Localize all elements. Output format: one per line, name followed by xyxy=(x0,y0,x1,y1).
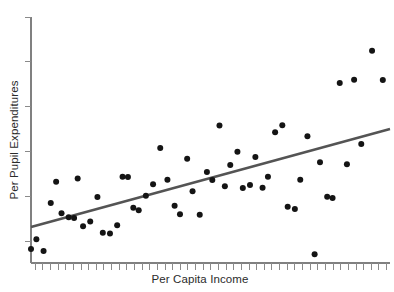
data-point xyxy=(190,188,196,194)
data-point xyxy=(337,80,343,86)
data-point xyxy=(330,195,336,201)
data-point xyxy=(279,122,285,128)
data-point xyxy=(150,181,156,187)
data-point xyxy=(204,169,210,175)
data-point xyxy=(292,206,298,212)
x-axis-title: Per Capita Income xyxy=(152,273,249,285)
data-point xyxy=(75,176,81,182)
data-point xyxy=(209,177,215,183)
x-axis-ticks xyxy=(35,263,386,270)
data-point xyxy=(304,133,310,139)
data-point xyxy=(80,223,86,229)
data-point xyxy=(130,205,136,211)
data-point xyxy=(312,251,318,257)
data-point xyxy=(351,77,357,83)
data-point xyxy=(222,183,228,189)
data-point xyxy=(177,211,183,217)
y-axis-ticks xyxy=(25,17,31,241)
data-point xyxy=(344,161,350,167)
data-point xyxy=(157,145,163,151)
data-point xyxy=(197,212,203,218)
data-points-group xyxy=(28,48,386,257)
data-point xyxy=(100,230,106,236)
data-point xyxy=(317,159,323,165)
y-axis-title: Per Pupil Expenditures xyxy=(8,80,20,199)
scatter-plot-figure: Per Capita Income Per Pupil Expenditures xyxy=(0,0,394,292)
data-point xyxy=(87,218,93,224)
data-point xyxy=(369,48,375,54)
data-point xyxy=(216,122,222,128)
data-point xyxy=(143,193,149,199)
data-point xyxy=(164,177,170,183)
data-point xyxy=(297,177,303,183)
data-point xyxy=(260,185,266,191)
data-point xyxy=(227,162,233,168)
data-point xyxy=(324,194,330,200)
data-point xyxy=(114,222,120,228)
data-point xyxy=(234,149,240,155)
data-point xyxy=(265,174,271,180)
data-point xyxy=(184,156,190,162)
data-point xyxy=(247,182,253,188)
data-point xyxy=(28,246,34,252)
data-point xyxy=(120,174,126,180)
data-point xyxy=(272,129,278,135)
data-point xyxy=(94,194,100,200)
data-point xyxy=(125,174,131,180)
data-point xyxy=(358,141,364,147)
data-point xyxy=(240,185,246,191)
data-point xyxy=(41,248,47,254)
data-point xyxy=(252,154,258,160)
data-point xyxy=(285,204,291,210)
data-point xyxy=(66,214,72,220)
data-point xyxy=(71,215,77,221)
data-point xyxy=(59,210,65,216)
data-point xyxy=(136,207,142,213)
plot-canvas: Per Capita Income Per Pupil Expenditures xyxy=(0,0,394,292)
data-point xyxy=(48,200,54,206)
data-point xyxy=(380,77,386,83)
data-point xyxy=(53,179,59,185)
data-point xyxy=(33,236,39,242)
data-point xyxy=(107,230,113,236)
data-point xyxy=(172,203,178,209)
